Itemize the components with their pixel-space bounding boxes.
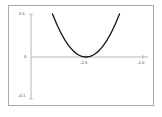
parabola-curve xyxy=(53,14,120,57)
x-axis-label-left: -1.5 xyxy=(80,61,87,65)
y-axis-label-bottom: -0.1 xyxy=(18,94,25,98)
figure-container: 0.1 0 -0.1 -1.5 -1.0 xyxy=(0,0,162,117)
x-axis-label-right: -1.0 xyxy=(137,61,144,65)
y-axis-label-zero: 0 xyxy=(24,55,26,59)
y-axis-label-top: 0.1 xyxy=(19,12,25,16)
